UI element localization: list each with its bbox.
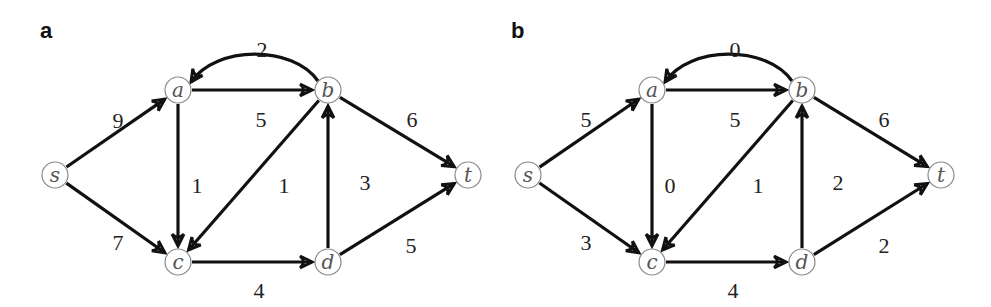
edge-b-c xyxy=(663,101,793,250)
node-label-t: t xyxy=(464,163,473,187)
edge-weight-b-c: 1 xyxy=(753,173,764,198)
node-label-d: d xyxy=(796,250,809,274)
edge-weight-s-a: 9 xyxy=(113,108,124,133)
panel-a-edges xyxy=(66,54,454,262)
edge-weight-b-c: 1 xyxy=(279,173,290,198)
node-label-a: a xyxy=(646,78,658,102)
node-label-s: s xyxy=(523,163,533,187)
edge-weight-c-d: 4 xyxy=(728,278,739,303)
edge-weight-b-a: 2 xyxy=(257,37,268,62)
edge-weight-d-t: 5 xyxy=(406,233,417,258)
node-label-c: c xyxy=(172,250,183,274)
edge-weight-s-a: 5 xyxy=(581,107,592,132)
edge-weight-d-b: 2 xyxy=(833,170,844,195)
network-flow-figure: a 9752114365 sabcdt b 5350014262 sabcdt xyxy=(0,0,991,307)
node-label-d: d xyxy=(322,250,335,274)
edge-weight-b-t: 6 xyxy=(407,107,418,132)
panel-b-edges xyxy=(539,54,927,262)
edge-weight-s-c: 3 xyxy=(581,230,592,255)
edge-weight-d-t: 2 xyxy=(879,233,890,258)
edge-b-a xyxy=(665,54,792,82)
panel-label-b: b xyxy=(511,18,524,43)
panel-label-a: a xyxy=(40,18,53,43)
edge-weight-b-a: 0 xyxy=(730,37,741,62)
edge-weight-a-c: 0 xyxy=(665,173,676,198)
edge-d-t xyxy=(340,183,455,254)
node-label-s: s xyxy=(50,163,60,187)
edge-weight-a-b: 5 xyxy=(256,107,267,132)
edge-weight-b-t: 6 xyxy=(879,107,890,132)
node-label-t: t xyxy=(937,163,946,187)
edge-b-t xyxy=(340,97,454,166)
node-label-b: b xyxy=(322,78,335,102)
node-label-a: a xyxy=(172,78,184,102)
node-label-c: c xyxy=(646,250,657,274)
edge-weight-a-b: 5 xyxy=(730,107,741,132)
edge-d-t xyxy=(814,183,928,254)
edge-weight-a-c: 1 xyxy=(192,173,203,198)
panel-b-graph: b 5350014262 sabcdt xyxy=(511,18,954,303)
edge-b-a xyxy=(191,54,318,82)
panel-a-graph: a 9752114365 sabcdt xyxy=(40,18,481,303)
edge-b-t xyxy=(814,97,927,166)
edge-weight-c-d: 4 xyxy=(254,278,265,303)
node-label-b: b xyxy=(796,78,809,102)
edge-weight-s-c: 7 xyxy=(113,230,124,255)
edge-weight-d-b: 3 xyxy=(360,170,371,195)
edge-b-c xyxy=(189,101,319,250)
